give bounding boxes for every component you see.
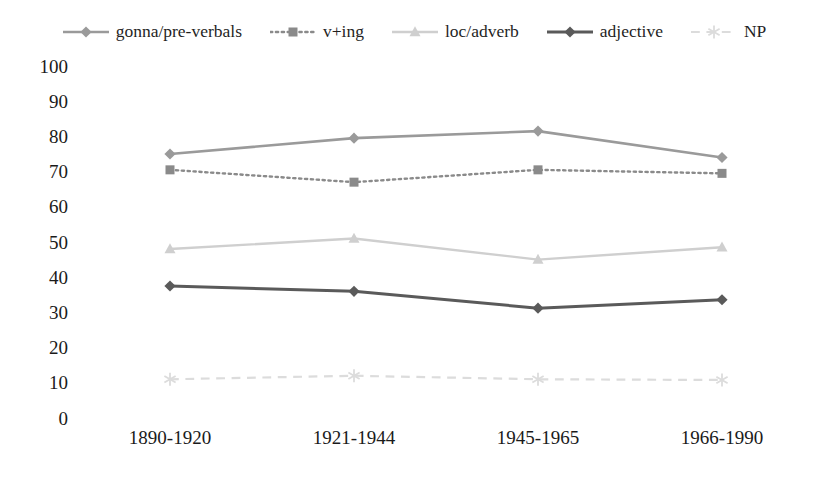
y-tick-label: 100 (14, 57, 68, 76)
legend-label: v+ing (323, 23, 364, 41)
y-tick-label: 60 (14, 197, 68, 216)
y-tick-label: 10 (14, 373, 68, 392)
x-tick-label: 1966-1990 (681, 428, 763, 447)
data-point (164, 148, 175, 159)
series-line (170, 238, 722, 259)
x-axis: 1890-19201921-19441945-19651966-1990 (78, 428, 814, 458)
legend-label: adjective (600, 23, 663, 41)
legend-label: gonna/pre-verbals (116, 23, 242, 41)
y-tick-label: 50 (14, 233, 68, 252)
series-line (170, 376, 722, 380)
series-line (170, 131, 722, 157)
y-tick-label: 90 (14, 92, 68, 111)
data-point (532, 126, 543, 137)
series-lines (78, 66, 814, 418)
legend-label: loc/adverb (445, 23, 519, 41)
data-point (164, 280, 175, 291)
x-tick-label: 1921-1944 (313, 428, 395, 447)
data-point (350, 178, 359, 187)
data-point (532, 303, 543, 314)
legend-item[interactable]: gonna/pre-verbals (63, 23, 242, 41)
y-tick-label: 30 (14, 303, 68, 322)
legend-item[interactable]: NP (691, 23, 766, 41)
y-tick-label: 40 (14, 268, 68, 287)
x-tick-label: 1890-1920 (129, 428, 211, 447)
legend-swatch-icon (547, 24, 593, 40)
y-tick-label: 80 (14, 127, 68, 146)
legend-swatch-icon (392, 24, 438, 40)
series-gonna-pre-verbals (164, 126, 727, 164)
data-point (716, 373, 727, 386)
legend-item[interactable]: loc/adverb (392, 23, 519, 41)
data-point (534, 165, 543, 174)
data-point (718, 169, 727, 178)
data-point (716, 152, 727, 163)
series-adjective (164, 280, 727, 313)
y-tick-label: 70 (14, 162, 68, 181)
chart-legend: gonna/pre-verbalsv+ingloc/adverbadjectiv… (0, 14, 829, 50)
data-point (348, 286, 359, 297)
data-point (716, 294, 727, 305)
plot-area (78, 66, 814, 418)
line-chart: gonna/pre-verbalsv+ingloc/adverbadjectiv… (0, 0, 829, 481)
series-line (170, 170, 722, 182)
legend-swatch-icon (691, 24, 737, 40)
legend-item[interactable]: adjective (547, 23, 663, 41)
y-tick-label: 20 (14, 338, 68, 357)
legend-swatch-icon (270, 24, 316, 40)
data-point (348, 133, 359, 144)
series-loc-adverb (165, 233, 728, 264)
legend-item[interactable]: v+ing (270, 23, 364, 41)
y-axis: 1009080706050403020100 (12, 66, 68, 418)
series-v-ing (166, 165, 727, 186)
series-np (164, 369, 727, 386)
legend-label: NP (744, 23, 766, 41)
y-tick-label: 0 (14, 409, 68, 428)
legend-swatch-icon (63, 24, 109, 40)
data-point (166, 165, 175, 174)
series-line (170, 286, 722, 308)
x-tick-label: 1945-1965 (497, 428, 579, 447)
